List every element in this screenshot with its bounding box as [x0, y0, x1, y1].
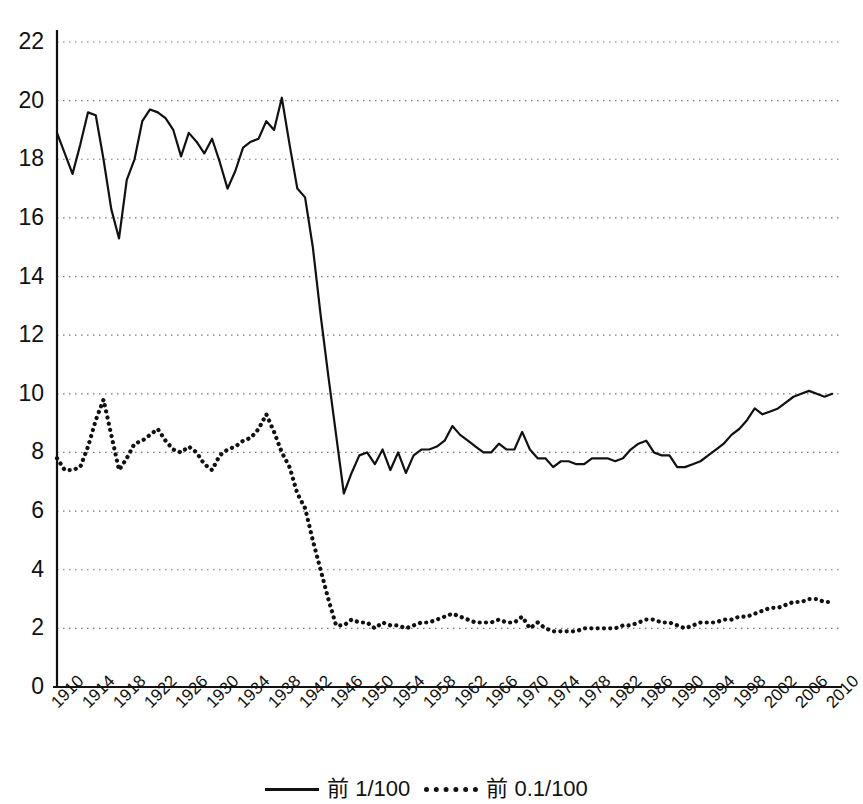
y-tick-label: 0	[0, 675, 44, 698]
legend-label-0: 前 1/100	[327, 778, 410, 800]
y-tick-label: 16	[0, 206, 44, 229]
y-tick-label: 6	[0, 499, 44, 522]
y-tick-label: 10	[0, 382, 44, 405]
y-tick-label: 8	[0, 440, 44, 463]
y-tick-label: 2	[0, 616, 44, 639]
y-tick-label: 14	[0, 265, 44, 288]
chart-legend: 前 1/100 前 0.1/100	[0, 778, 853, 800]
data-series-line-1	[57, 400, 832, 632]
y-tick-label: 22	[0, 30, 44, 53]
y-tick-label: 18	[0, 147, 44, 170]
y-tick-label: 12	[0, 323, 44, 346]
legend-swatch-dotted-line-icon	[424, 787, 478, 792]
y-tick-label: 20	[0, 89, 44, 112]
y-tick-label: 4	[0, 558, 44, 581]
legend-item-solid: 前 1/100	[265, 778, 410, 800]
data-series-line-0	[57, 98, 832, 494]
legend-label-1: 前 0.1/100	[486, 778, 588, 800]
legend-item-dotted: 前 0.1/100	[424, 778, 588, 800]
legend-swatch-solid-line-icon	[265, 788, 319, 791]
